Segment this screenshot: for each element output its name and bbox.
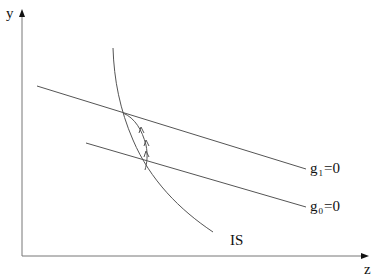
g0-label-sub: 0 [319, 206, 324, 216]
g0-label-rest: =0 [324, 198, 340, 214]
x-axis-arrow-icon [361, 253, 369, 259]
g0-line [86, 143, 306, 207]
g1-label-base: g [310, 160, 318, 176]
is-curve [113, 48, 213, 232]
g1-label: g1=0 [310, 161, 340, 176]
g1-label-rest: =0 [324, 160, 340, 176]
x-axis-label: z [364, 262, 371, 277]
is-curve-label: IS [230, 233, 243, 248]
g1-line [37, 86, 306, 169]
g1-label-sub: 1 [319, 168, 324, 178]
g0-label: g0=0 [310, 199, 340, 214]
path-arrow-icon [144, 151, 149, 157]
y-axis-label: y [6, 6, 14, 21]
is-diagram [0, 0, 376, 279]
y-axis-arrow-icon [19, 9, 25, 17]
g0-label-base: g [310, 198, 318, 214]
